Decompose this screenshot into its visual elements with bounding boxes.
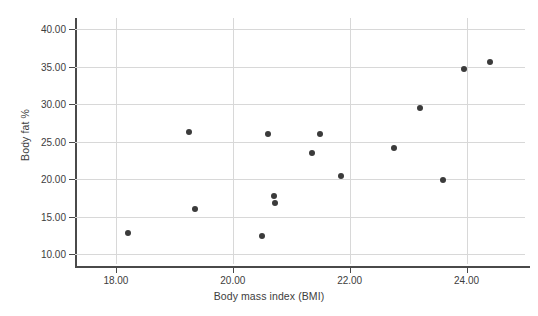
data-point xyxy=(309,150,315,156)
x-tick-mark xyxy=(350,267,351,273)
x-axis-title-text: Body mass index (BMI) xyxy=(214,290,325,302)
x-tick-label: 24.00 xyxy=(454,275,479,286)
data-point xyxy=(417,105,423,111)
y-tick-label: 30.00 xyxy=(6,99,66,110)
gridline-horizontal xyxy=(75,254,525,255)
y-tick-label: 15.00 xyxy=(6,211,66,222)
data-point xyxy=(461,66,467,72)
x-tick-label: 18.00 xyxy=(103,275,128,286)
gridline-horizontal xyxy=(75,217,525,218)
gridline-horizontal xyxy=(75,179,525,180)
gridline-horizontal xyxy=(75,29,525,30)
x-tick-label: 20.00 xyxy=(220,275,245,286)
y-axis-title: Body fat % xyxy=(14,0,36,270)
x-tick-mark xyxy=(467,267,468,273)
data-point xyxy=(338,173,344,179)
data-point xyxy=(192,206,198,212)
gridline-horizontal xyxy=(75,142,525,143)
gridline-vertical xyxy=(116,18,117,264)
x-tick-mark xyxy=(116,267,117,273)
data-point xyxy=(440,177,446,183)
y-tick-label: 40.00 xyxy=(6,24,66,35)
data-point xyxy=(391,145,397,151)
data-point xyxy=(186,129,192,135)
y-tick-label: 35.00 xyxy=(6,61,66,72)
scatter-chart: Body fat % 10.0015.0020.0025.0030.0035.0… xyxy=(0,0,538,316)
data-point xyxy=(271,193,277,199)
data-point xyxy=(125,230,131,236)
data-point xyxy=(259,233,265,239)
gridline-vertical xyxy=(233,18,234,264)
data-point xyxy=(272,200,278,206)
x-tick-label: 22.00 xyxy=(337,275,362,286)
y-tick-label: 25.00 xyxy=(6,136,66,147)
gridline-vertical xyxy=(350,18,351,264)
gridline-horizontal xyxy=(75,67,525,68)
data-point xyxy=(487,59,493,65)
data-point xyxy=(317,131,323,137)
x-tick-mark xyxy=(233,267,234,273)
y-tick-label: 20.00 xyxy=(6,174,66,185)
y-tick-label: 10.00 xyxy=(6,249,66,260)
gridline-horizontal xyxy=(75,104,525,105)
x-axis-title: Body mass index (BMI) xyxy=(0,290,538,302)
gridline-vertical xyxy=(467,18,468,264)
y-axis-title-text: Body fat % xyxy=(19,109,31,161)
x-axis-spine xyxy=(75,266,530,268)
data-point xyxy=(265,131,271,137)
plot-area xyxy=(75,18,525,264)
